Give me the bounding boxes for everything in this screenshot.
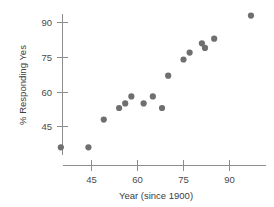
data-point xyxy=(85,144,91,150)
y-tick-label-90: 90 xyxy=(41,17,52,28)
data-point xyxy=(165,73,171,79)
x-axis: 45 60 75 90 Year (since 1900) xyxy=(63,160,266,201)
y-axis: 90 75 60 45 % Responding Yes xyxy=(17,14,68,155)
plot-canvas: 90 75 60 45 % Responding Yes 45 60 75 90… xyxy=(0,0,274,207)
data-point xyxy=(187,49,193,55)
x-tick-label-75: 75 xyxy=(178,174,189,185)
y-tick-label-45: 45 xyxy=(41,121,52,132)
data-point xyxy=(202,45,208,51)
y-axis-title: % Responding Yes xyxy=(17,45,28,125)
data-point xyxy=(211,36,217,42)
data-point xyxy=(101,116,107,122)
data-points-group xyxy=(58,12,254,150)
data-point xyxy=(128,93,134,99)
data-point xyxy=(180,56,186,62)
data-point xyxy=(150,93,156,99)
data-point xyxy=(122,100,128,106)
x-axis-tick-labels: 45 60 75 90 xyxy=(86,174,235,185)
x-tick-label-60: 60 xyxy=(132,174,143,185)
scatter-plot-figure: 90 75 60 45 % Responding Yes 45 60 75 90… xyxy=(0,0,274,207)
data-point xyxy=(58,144,64,150)
data-point xyxy=(141,100,147,106)
x-tick-label-90: 90 xyxy=(224,174,235,185)
data-point xyxy=(248,12,254,18)
x-axis-title: Year (since 1900) xyxy=(119,190,193,201)
x-tick-label-45: 45 xyxy=(86,174,97,185)
data-point xyxy=(159,105,165,111)
y-axis-tick-labels: 90 75 60 45 xyxy=(41,17,52,132)
y-tick-label-60: 60 xyxy=(41,87,52,98)
y-tick-label-75: 75 xyxy=(41,52,52,63)
data-point xyxy=(116,105,122,111)
